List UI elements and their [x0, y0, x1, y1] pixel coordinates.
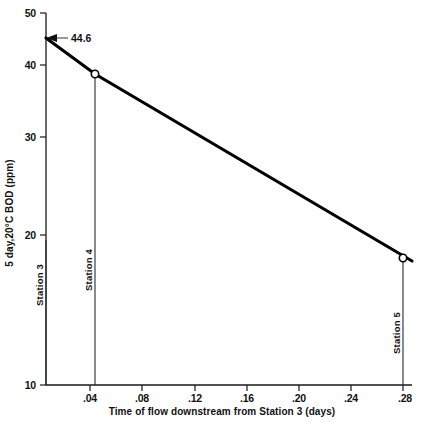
- x-tick-label-16: .16: [240, 392, 254, 404]
- chart-canvas: 50 40 30 20 10 .04 .08 .12 .16 .20 .24 .…: [0, 0, 427, 423]
- x-tick-label-20: .20: [292, 392, 306, 404]
- station-label-4: Station 4: [83, 249, 94, 291]
- bod-decay-line: [46, 38, 412, 261]
- x-tick-label-28: .28: [398, 392, 412, 404]
- data-point-station-4: [91, 70, 98, 77]
- x-tick-label-12: .12: [188, 392, 202, 404]
- station-label-5: Station 5: [391, 312, 402, 354]
- y-tick-label-10: 10: [25, 379, 37, 391]
- y-tick-label-40: 40: [25, 59, 37, 71]
- station-label-3: Station 3: [34, 264, 45, 306]
- x-tick-label-24: .24: [344, 392, 358, 404]
- y-axis-title: 5 day,20°C BOD (ppm): [4, 159, 15, 267]
- x-tick-label-04: .04: [83, 392, 97, 404]
- y-tick-label-50: 50: [25, 7, 37, 19]
- axis-lines: [46, 13, 412, 385]
- x-axis-title: Time of flow downstream from Station 3 (…: [109, 406, 336, 417]
- x-tick-label-08: .08: [135, 392, 149, 404]
- data-point-station-5: [399, 254, 406, 261]
- bod-decay-chart: 50 40 30 20 10 .04 .08 .12 .16 .20 .24 .…: [0, 0, 427, 423]
- annotation-value-44-6: 44.6: [71, 32, 92, 44]
- y-tick-label-30: 30: [25, 131, 37, 143]
- y-tick-label-20: 20: [25, 229, 37, 241]
